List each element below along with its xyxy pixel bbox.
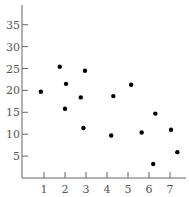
y-tick: 5 [13, 150, 28, 163]
y-tick-label: 15 [6, 106, 20, 119]
y-tick-label: 25 [6, 63, 20, 76]
data-point [81, 126, 85, 130]
x-tick-label: 3 [83, 183, 90, 196]
y-tick-label: 35 [6, 19, 20, 32]
data-point [58, 65, 62, 69]
y-tick-label: 10 [6, 128, 20, 141]
x-tick-label: 2 [62, 183, 69, 196]
y-tick: 35 [6, 19, 28, 32]
y-tick-label: 5 [13, 150, 20, 163]
y-tick-label: 20 [6, 84, 20, 97]
y-ticks: 5101520253035 [6, 19, 28, 163]
x-tick-label: 5 [125, 183, 132, 196]
y-tick-label: 30 [6, 41, 20, 54]
x-tick: 4 [104, 172, 111, 196]
data-point [79, 95, 83, 99]
data-point [169, 128, 173, 132]
x-tick-label: 6 [146, 183, 153, 196]
y-tick: 20 [6, 84, 28, 97]
x-tick: 1 [41, 172, 48, 196]
data-point [64, 82, 68, 86]
data-point [83, 68, 87, 72]
x-tick: 6 [146, 172, 153, 196]
data-point [63, 107, 67, 111]
data-points [39, 65, 180, 167]
data-point [139, 130, 143, 134]
x-tick-label: 1 [41, 183, 48, 196]
x-tick: 7 [167, 172, 174, 196]
data-point [151, 162, 155, 166]
x-ticks: 1234567 [41, 172, 174, 196]
x-tick: 2 [62, 172, 69, 196]
data-point [129, 83, 133, 87]
y-tick: 10 [6, 128, 28, 141]
y-tick: 15 [6, 106, 28, 119]
scatter-chart: 5101520253035 1234567 [0, 0, 189, 197]
data-point [39, 90, 43, 94]
data-point [111, 94, 115, 98]
y-tick: 25 [6, 63, 28, 76]
axes [22, 5, 186, 178]
data-point [109, 133, 113, 137]
x-tick-label: 4 [104, 183, 111, 196]
data-point [153, 111, 157, 115]
x-tick: 5 [125, 172, 132, 196]
x-tick: 3 [83, 172, 90, 196]
y-tick: 30 [6, 41, 28, 54]
data-point [175, 150, 179, 154]
x-tick-label: 7 [167, 183, 174, 196]
